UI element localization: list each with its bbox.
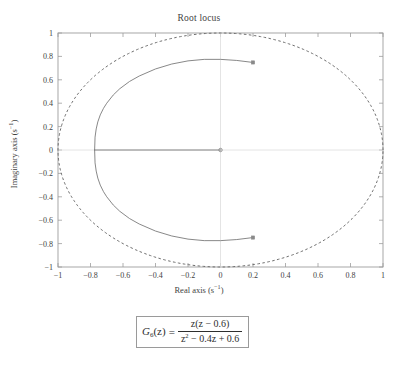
tick-labels: −1−0.8−0.6−0.4−0.200.20.40.60.8110.80.60… (38, 29, 385, 280)
y-tick-label-2: 0.6 (43, 76, 53, 85)
y-tick-label-1: 0.8 (43, 52, 53, 61)
numerator: z(z − 0.6) (188, 319, 233, 331)
pole-branch-end-lower (251, 236, 254, 239)
transfer-function-arg: (z) (153, 325, 165, 337)
y-tick-label-5: 0 (49, 146, 53, 155)
root-locus-figure: Root locus −1−0.8−0.6−0.4−0.200.20.40.60… (0, 0, 398, 368)
root-locus-upper-branch (95, 59, 253, 150)
y-tick-label-6: −0.2 (38, 169, 53, 178)
x-tick-label-6: 0.2 (248, 271, 258, 280)
x-axis-label: Real axis (s−1) (0, 283, 398, 295)
x-axis-label-exponent: −1 (214, 283, 221, 290)
transfer-function-fraction: z(z − 0.6) z2 − 0.4z + 0.6 (178, 319, 242, 344)
plot-canvas: −1−0.8−0.6−0.4−0.200.20.40.60.8110.80.60… (0, 0, 398, 368)
x-tick-label-3: −0.4 (148, 271, 163, 280)
pole-branch-end-upper (251, 61, 254, 64)
x-tick-label-10: 1 (381, 271, 385, 280)
denominator-rest: − 0.4z + 0.6 (189, 333, 240, 344)
x-tick-label-8: 0.6 (313, 271, 323, 280)
y-tick-label-0: 1 (49, 29, 53, 38)
transfer-function-lhs: G6(z) (142, 325, 169, 339)
root-locus-lower-branch (95, 150, 253, 241)
x-tick-label-5: 0 (219, 271, 223, 280)
transfer-function-box: G6(z) = z(z − 0.6) z2 − 0.4z + 0.6 (136, 316, 249, 348)
x-tick-label-1: −0.8 (83, 271, 98, 280)
denominator: z2 − 0.4z + 0.6 (178, 331, 242, 345)
transfer-function-symbol: G (142, 325, 150, 337)
y-axis-label-exponent: −1 (7, 123, 14, 130)
y-tick-label-4: 0.2 (43, 123, 53, 132)
y-tick-label-3: 0.4 (43, 99, 53, 108)
y-tick-label-9: −0.8 (38, 240, 53, 249)
x-tick-label-4: −0.2 (181, 271, 196, 280)
x-tick-label-0: −1 (54, 271, 63, 280)
y-tick-label-10: −1 (44, 263, 53, 272)
x-tick-label-9: 0.8 (346, 271, 356, 280)
equals-sign: = (169, 326, 178, 338)
y-tick-label-8: −0.6 (38, 216, 53, 225)
x-tick-label-7: 0.4 (281, 271, 291, 280)
data-series (58, 33, 383, 267)
y-axis-label-text: Imaginary axis (s (9, 129, 19, 188)
x-axis-label-text: Real axis (s (174, 285, 214, 295)
y-axis-label: Imaginary axis (s−1) (7, 59, 19, 249)
y-axis-label-tail: ) (9, 120, 19, 123)
x-axis-label-tail: ) (221, 285, 224, 295)
x-tick-label-2: −0.6 (116, 271, 131, 280)
y-tick-label-7: −0.4 (38, 193, 53, 202)
